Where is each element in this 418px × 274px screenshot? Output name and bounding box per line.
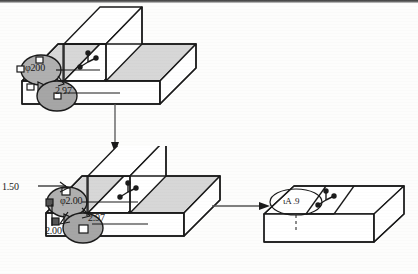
- label-feature-callout: ιA .9: [283, 196, 299, 206]
- step-2-geometry: [8, 146, 238, 274]
- handle-center: [79, 225, 88, 233]
- step-3-diagram: ιA .9: [258, 172, 418, 274]
- handle-bottom-left: [52, 218, 59, 225]
- step-3-geometry: [258, 172, 418, 274]
- handle-left: [17, 66, 24, 72]
- step-2-diagram: 1.50 φ2.00 2.97 2.00: [8, 146, 238, 274]
- label-depth-297: 2.97: [88, 212, 105, 223]
- figure-canvas: φ200 2.97: [0, 0, 418, 274]
- label-depth-297: 2.97: [55, 85, 72, 96]
- label-offset-200: 2.00: [45, 225, 62, 236]
- label-diameter-200: φ200: [25, 62, 45, 73]
- label-diameter-200: φ2.00: [60, 195, 82, 206]
- block-front-face: [264, 214, 374, 242]
- handle-bottom-left: [27, 84, 34, 90]
- label-offset-150: 1.50: [2, 181, 19, 192]
